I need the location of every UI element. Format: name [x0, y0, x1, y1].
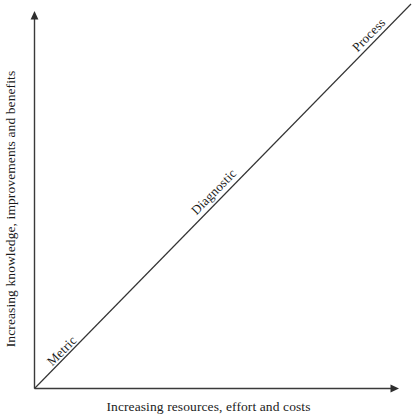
maturity-progression-diagram: Metric Diagnostic Process Increasing res… [0, 0, 417, 418]
x-axis-title: Increasing resources, effort and costs [0, 399, 417, 415]
arrow-right-icon [391, 385, 400, 393]
diagonal-trend-line [35, 4, 412, 389]
y-axis-title: Increasing knowledge, improvements and b… [0, 0, 22, 418]
arrow-up-icon [31, 11, 39, 20]
